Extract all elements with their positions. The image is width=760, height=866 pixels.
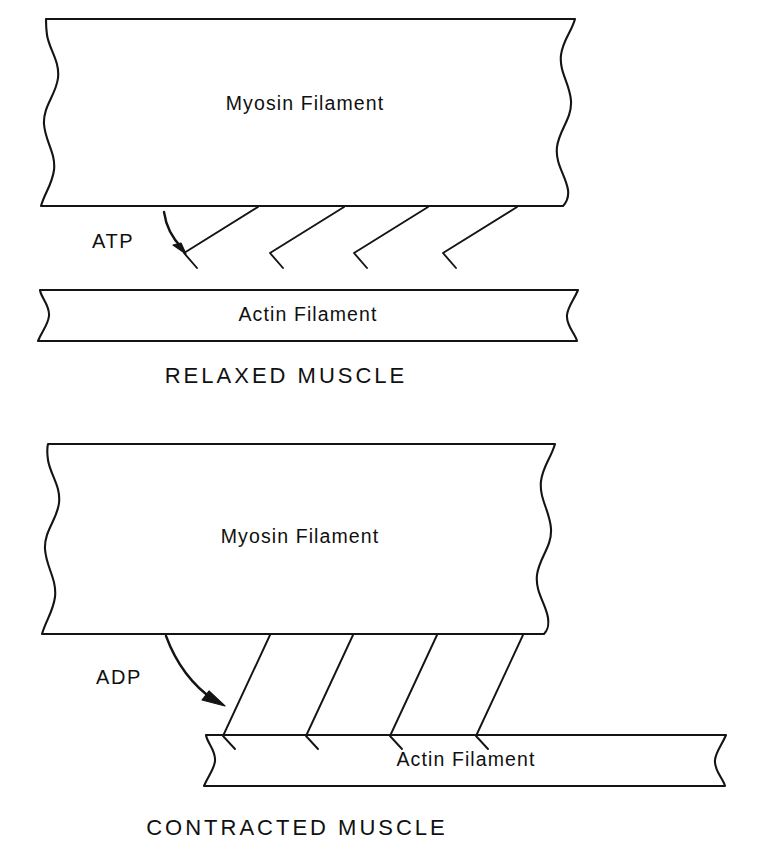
diagram-canvas: Myosin Filament ATP Actin Filament RELAX… [0, 0, 760, 866]
crossbridge-contracted-1 [223, 635, 270, 749]
crossbridge-contracted-3 [390, 635, 437, 749]
adp-label: ADP [96, 666, 142, 688]
actin-filament-relaxed-label: Actin Filament [239, 303, 378, 325]
caption-relaxed-muscle: RELAXED MUSCLE [165, 363, 408, 388]
panel-relaxed: Myosin Filament ATP Actin Filament RELAX… [38, 19, 578, 388]
crossbridge-relaxed-3 [354, 207, 428, 268]
caption-contracted-muscle: CONTRACTED MUSCLE [146, 815, 448, 840]
myosin-filament-relaxed-label: Myosin Filament [226, 92, 384, 114]
crossbridge-relaxed-2 [270, 207, 344, 268]
muscle-contraction-diagram: Myosin Filament ATP Actin Filament RELAX… [0, 0, 760, 866]
crossbridge-relaxed-1 [184, 207, 258, 268]
atp-arrow-curve [164, 212, 182, 248]
crossbridge-relaxed-4 [443, 207, 517, 268]
crossbridge-contracted-2 [306, 635, 353, 749]
myosin-filament-contracted-label: Myosin Filament [221, 525, 379, 547]
atp-label: ATP [92, 230, 134, 252]
adp-arrow-curve [166, 636, 214, 700]
atp-arrow-head [173, 243, 186, 254]
panel-contracted: Myosin Filament ADP Actin Filament CONTR… [42, 444, 726, 840]
actin-filament-contracted-label: Actin Filament [397, 748, 536, 770]
crossbridge-contracted-4 [476, 635, 523, 749]
